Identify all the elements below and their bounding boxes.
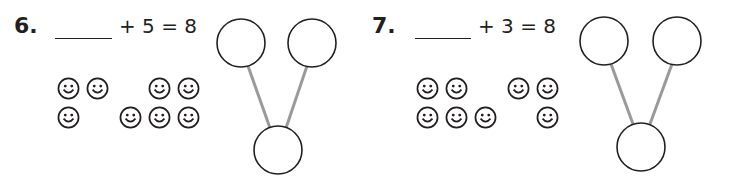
number-bond-diagram	[0, 0, 738, 186]
bond-connector-left	[611, 64, 633, 124]
bond-connector-right	[650, 64, 672, 124]
bond-whole-circle[interactable]	[617, 123, 665, 171]
bond-part-left-circle[interactable]	[580, 17, 628, 65]
problem-7: 7. + 3 = 8	[0, 0, 738, 186]
bond-part-right-circle[interactable]	[653, 17, 701, 65]
